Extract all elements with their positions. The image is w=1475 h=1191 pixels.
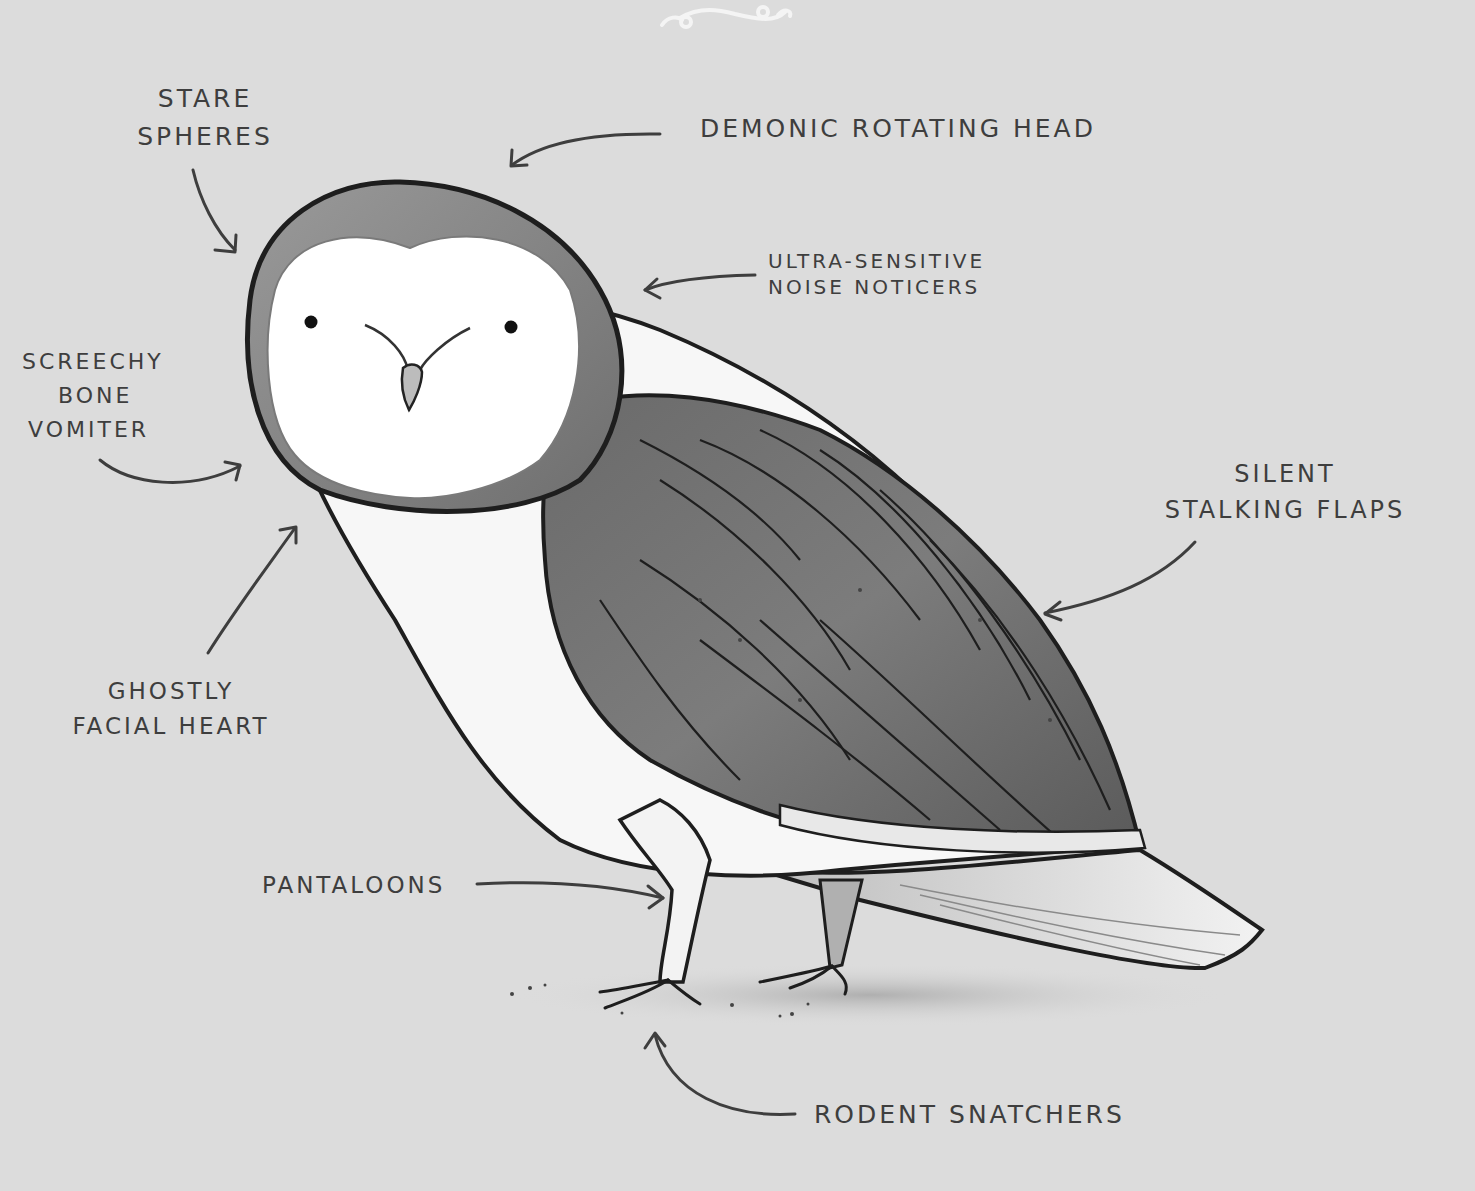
- arrow-facial-heart: [208, 528, 295, 653]
- label-pantaloons: Pantaloons: [262, 868, 445, 903]
- arrow-stare-spheres: [193, 170, 235, 250]
- owl-back-leg: [820, 880, 862, 968]
- label-silent-stalking-flaps: Silent Stalking Flaps: [1160, 456, 1410, 528]
- owl-facial-disc: [268, 236, 579, 498]
- owl-anatomy-illustration: Stare Spheres Demonic Rotating Head Ultr…: [0, 0, 1475, 1191]
- label-facial-heart-line2: Facial Heart: [56, 709, 286, 744]
- owl-right-eye: [505, 321, 518, 334]
- arrow-stalking-flaps: [1045, 542, 1195, 613]
- arrow-bone-vomiter: [100, 460, 240, 482]
- label-ghostly-facial-heart: Ghostly Facial Heart: [56, 674, 286, 743]
- label-pantaloons-text: Pantaloons: [262, 868, 445, 903]
- label-stare-spheres-line1: Stare: [120, 80, 290, 118]
- arrow-noise-noticers: [645, 275, 755, 290]
- label-bone-vomiter: Screechy Bone Vomiter: [22, 345, 164, 447]
- label-bone-vomiter-line2: Bone: [22, 379, 164, 413]
- owl-drawing: [0, 0, 1475, 1191]
- ground-shadow: [510, 963, 1230, 1027]
- label-noise-noticers: Ultra-Sensitive Noise Noticers: [768, 248, 985, 300]
- arrow-pantaloons: [477, 883, 663, 898]
- label-noise-noticers-line2: Noise Noticers: [768, 274, 985, 300]
- label-rodent-snatchers: Rodent Snatchers: [814, 1096, 1125, 1134]
- label-facial-heart-line1: Ghostly: [56, 674, 286, 709]
- label-stare-spheres: Stare Spheres: [120, 80, 290, 155]
- label-bone-vomiter-line3: Vomiter: [22, 413, 164, 447]
- label-stalking-flaps-line2: Stalking Flaps: [1160, 492, 1410, 528]
- label-noise-noticers-line1: Ultra-Sensitive: [768, 248, 985, 274]
- label-demonic-rotating-head: Demonic Rotating Head: [700, 110, 1096, 148]
- label-demonic-rotating-head-text: Demonic Rotating Head: [700, 110, 1096, 148]
- label-rodent-snatchers-text: Rodent Snatchers: [814, 1096, 1125, 1134]
- label-stare-spheres-line2: Spheres: [120, 118, 290, 156]
- arrow-demonic-head: [512, 134, 660, 165]
- flourish-icon: [662, 7, 790, 27]
- arrow-rodent-snatchers: [655, 1035, 795, 1114]
- label-stalking-flaps-line1: Silent: [1160, 456, 1410, 492]
- label-bone-vomiter-line1: Screechy: [22, 345, 164, 379]
- owl-left-eye: [305, 316, 318, 329]
